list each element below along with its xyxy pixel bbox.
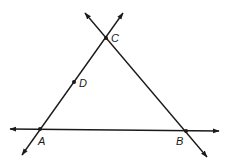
label-a: A	[37, 135, 45, 147]
geometry-diagram: ABCD	[0, 0, 230, 167]
label-d: D	[79, 77, 87, 89]
point-b	[184, 129, 188, 133]
point-a	[38, 127, 42, 131]
point-d	[72, 80, 76, 84]
point-c	[104, 36, 108, 40]
label-b: B	[176, 135, 183, 147]
label-c: C	[111, 32, 119, 44]
line-AC	[22, 13, 123, 155]
line-BC	[85, 13, 207, 157]
